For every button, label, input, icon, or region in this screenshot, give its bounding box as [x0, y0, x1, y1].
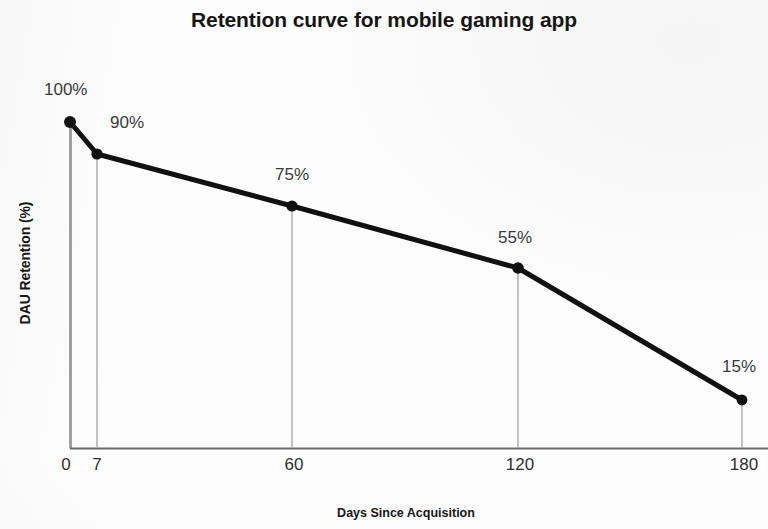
data-label-day-180: 15%	[722, 357, 756, 377]
chart-page: Retention curve for mobile gaming app DA…	[0, 0, 768, 529]
x-axis-label: Days Since Acquisition	[70, 506, 742, 520]
data-point-markers	[64, 116, 747, 405]
line-chart-plot	[0, 0, 768, 529]
data-point-marker[interactable]	[737, 395, 748, 406]
data-point-marker[interactable]	[91, 148, 102, 159]
x-tick-label-7: 7	[92, 455, 101, 475]
x-tick-label-120: 120	[506, 455, 534, 475]
data-label-day-120: 55%	[498, 228, 532, 248]
data-point-marker[interactable]	[64, 116, 76, 128]
x-tick-label-60: 60	[285, 455, 304, 475]
data-label-day-0: 100%	[44, 80, 87, 100]
data-point-marker[interactable]	[286, 200, 297, 211]
retention-line	[70, 122, 742, 400]
data-label-day-60: 75%	[275, 165, 309, 185]
droplines-group	[70, 122, 742, 448]
data-label-day-7: 90%	[110, 113, 144, 133]
x-tick-label-180: 180	[730, 455, 758, 475]
data-point-marker[interactable]	[512, 262, 524, 274]
x-tick-label-0: 0	[61, 455, 70, 475]
